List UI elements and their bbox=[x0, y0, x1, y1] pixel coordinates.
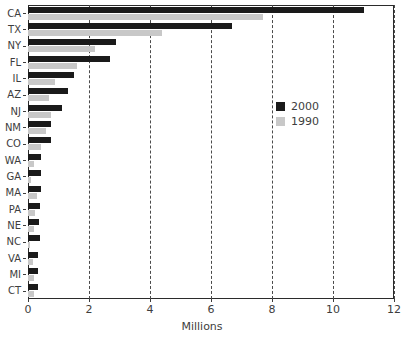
category-tick-CT bbox=[23, 291, 26, 292]
category-tick-NM bbox=[23, 127, 26, 128]
bar-CT-1990 bbox=[28, 291, 34, 297]
bar-MA-1990 bbox=[28, 193, 37, 199]
x-tick-label-0: 0 bbox=[25, 303, 32, 316]
bar-group-NE bbox=[28, 219, 394, 233]
bar-PA-2000 bbox=[28, 203, 40, 209]
x-tick-mark-10 bbox=[333, 299, 334, 302]
bar-TX-2000 bbox=[28, 23, 232, 29]
category-label-FL: FL bbox=[10, 58, 21, 68]
bars-area bbox=[28, 5, 394, 299]
bar-AZ-1990 bbox=[28, 95, 49, 101]
bar-CT-2000 bbox=[28, 284, 38, 290]
legend-label-2000: 2000 bbox=[291, 101, 319, 112]
bar-GA-1990 bbox=[28, 177, 31, 183]
x-tick-mark-6 bbox=[211, 299, 212, 302]
bar-PA-1990 bbox=[28, 210, 35, 216]
category-label-NE: NE bbox=[7, 221, 21, 231]
bar-group-PA bbox=[28, 203, 394, 217]
bar-MA-2000 bbox=[28, 186, 41, 192]
bar-group-IL bbox=[28, 72, 394, 86]
x-tick-mark-8 bbox=[272, 299, 273, 302]
category-label-TX: TX bbox=[8, 25, 21, 35]
category-tick-VA bbox=[23, 258, 26, 259]
bar-NM-1990 bbox=[28, 128, 46, 134]
bar-group-CT bbox=[28, 284, 394, 298]
bar-group-MA bbox=[28, 186, 394, 200]
category-tick-FL bbox=[23, 62, 26, 63]
category-axis-labels: CATXNYFLILAZNJNMCOWAGAMAPANENCVAMICT bbox=[0, 5, 26, 299]
bar-MI-1990 bbox=[28, 275, 34, 281]
bar-group-FL bbox=[28, 56, 394, 70]
x-tick-mark-12 bbox=[394, 299, 395, 302]
x-tick-label-4: 4 bbox=[147, 303, 154, 316]
bar-IL-1990 bbox=[28, 79, 55, 85]
x-tick-label-2: 2 bbox=[86, 303, 93, 316]
legend-swatch-1990 bbox=[276, 117, 285, 126]
bar-NY-1990 bbox=[28, 46, 95, 52]
category-label-AZ: AZ bbox=[7, 90, 21, 100]
bar-group-NY bbox=[28, 39, 394, 53]
bar-group-WA bbox=[28, 154, 394, 168]
bar-NC-1990 bbox=[28, 242, 30, 248]
bar-TX-1990 bbox=[28, 30, 162, 36]
category-label-IL: IL bbox=[12, 74, 21, 84]
category-tick-WA bbox=[23, 160, 26, 161]
x-tick-mark-0 bbox=[28, 299, 29, 302]
legend-item-1990: 1990 bbox=[276, 115, 319, 128]
x-axis-title: Millions bbox=[0, 320, 404, 333]
bar-FL-2000 bbox=[28, 56, 110, 62]
bar-group-TX bbox=[28, 23, 394, 37]
category-label-CA: CA bbox=[7, 9, 21, 19]
bar-NM-2000 bbox=[28, 121, 51, 127]
category-label-CT: CT bbox=[8, 286, 21, 296]
category-tick-CA bbox=[23, 13, 26, 14]
x-tick-mark-2 bbox=[89, 299, 90, 302]
bar-NE-1990 bbox=[28, 226, 34, 232]
category-label-NM: NM bbox=[5, 123, 21, 133]
bar-NE-2000 bbox=[28, 219, 39, 225]
category-label-GA: GA bbox=[6, 172, 21, 182]
category-tick-NE bbox=[23, 225, 26, 226]
bar-NJ-1990 bbox=[28, 112, 51, 118]
bar-CO-2000 bbox=[28, 137, 51, 143]
bar-VA-2000 bbox=[28, 252, 38, 258]
category-tick-PA bbox=[23, 209, 26, 210]
category-tick-AZ bbox=[23, 95, 26, 96]
bar-group-NJ bbox=[28, 105, 394, 119]
bar-IL-2000 bbox=[28, 72, 74, 78]
bar-CA-2000 bbox=[28, 7, 364, 13]
category-tick-TX bbox=[23, 29, 26, 30]
category-label-NC: NC bbox=[7, 237, 21, 247]
x-axis-tick-labels: 024681012 bbox=[28, 303, 394, 319]
x-tick-mark-4 bbox=[150, 299, 151, 302]
horizontal-bar-chart: CATXNYFLILAZNJNMCOWAGAMAPANENCVAMICT 024… bbox=[0, 0, 404, 341]
x-tick-label-8: 8 bbox=[269, 303, 276, 316]
bar-group-VA bbox=[28, 252, 394, 266]
category-label-NY: NY bbox=[7, 41, 21, 51]
category-label-NJ: NJ bbox=[11, 107, 21, 117]
category-tick-NY bbox=[23, 46, 26, 47]
category-label-MA: MA bbox=[6, 188, 21, 198]
legend-item-2000: 2000 bbox=[276, 100, 319, 113]
bar-AZ-2000 bbox=[28, 88, 68, 94]
bar-WA-2000 bbox=[28, 154, 41, 160]
bar-VA-1990 bbox=[28, 259, 33, 265]
bar-CO-1990 bbox=[28, 144, 41, 150]
bar-NJ-2000 bbox=[28, 105, 62, 111]
bar-GA-2000 bbox=[28, 170, 41, 176]
bar-MI-2000 bbox=[28, 268, 38, 274]
category-tick-GA bbox=[23, 176, 26, 177]
legend-swatch-2000 bbox=[276, 102, 285, 111]
category-label-PA: PA bbox=[9, 205, 21, 215]
x-tick-label-12: 12 bbox=[387, 303, 401, 316]
category-tick-IL bbox=[23, 78, 26, 79]
category-tick-CO bbox=[23, 144, 26, 145]
bar-WA-1990 bbox=[28, 161, 34, 167]
category-tick-NC bbox=[23, 242, 26, 243]
chart-legend: 20001990 bbox=[276, 100, 319, 130]
category-tick-MI bbox=[23, 274, 26, 275]
x-tick-label-6: 6 bbox=[208, 303, 215, 316]
bar-group-CA bbox=[28, 7, 394, 21]
bar-group-NM bbox=[28, 121, 394, 135]
gridline-12 bbox=[394, 5, 395, 299]
